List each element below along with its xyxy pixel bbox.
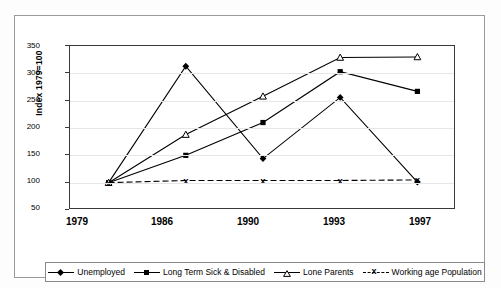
x-marker-icon: x xyxy=(363,267,389,277)
y-tick-label: 150 xyxy=(0,150,40,158)
filled-square-icon xyxy=(134,267,160,277)
data-point-x: x xyxy=(338,175,344,186)
data-point-square xyxy=(415,89,420,94)
filled-diamond-icon xyxy=(48,267,74,277)
data-point-square xyxy=(260,120,265,125)
data-point-triangle xyxy=(182,131,189,137)
y-tick-label: 50 xyxy=(0,204,40,212)
legend-label: Working age Population xyxy=(392,267,482,277)
legend-label: Long Term Sick & Disabled xyxy=(163,267,265,277)
y-tick-label: 250 xyxy=(0,96,40,104)
legend-item-unemployed[interactable]: Unemployed xyxy=(48,267,125,277)
legend-item-long-term-sick-disabled[interactable]: Long Term Sick & Disabled xyxy=(134,267,265,277)
data-point-x: x xyxy=(415,174,421,185)
y-tick-label: 350 xyxy=(0,42,40,50)
legend-item-working-age-population[interactable]: x Working age Population xyxy=(363,267,482,277)
plot-region: xxxxx xyxy=(69,45,455,209)
x-tick-label: 1990 xyxy=(218,216,278,227)
legend-item-lone-parents[interactable]: Lone Parents xyxy=(274,267,354,277)
chart-outer-frame: Index 1979=100 350 300 250 200 150 100 5… xyxy=(14,15,485,278)
x-tick-label: 1997 xyxy=(390,216,450,227)
data-point-triangle xyxy=(260,93,267,99)
chart-figure: Index 1979=100 350 300 250 200 150 100 5… xyxy=(0,0,501,288)
x-tick-label: 1993 xyxy=(304,216,364,227)
gridline xyxy=(70,101,454,102)
y-tick-label: 300 xyxy=(0,69,40,77)
gridline xyxy=(70,155,454,156)
series-working-age-population: xxxxx xyxy=(106,174,421,188)
data-point-x: x xyxy=(260,175,266,186)
y-tick-label: 100 xyxy=(0,177,40,185)
y-tick-label: 200 xyxy=(0,123,40,131)
open-triangle-icon xyxy=(274,267,300,277)
data-point-x: x xyxy=(183,175,189,186)
gridline xyxy=(70,128,454,129)
legend-label: Lone Parents xyxy=(303,267,354,277)
chart-area: Index 1979=100 350 300 250 200 150 100 5… xyxy=(15,16,484,277)
legend-label: Unemployed xyxy=(77,267,125,277)
x-tick-label: 1979 xyxy=(47,216,107,227)
gridline xyxy=(70,73,454,74)
gridline xyxy=(70,183,454,184)
x-tick-label: 1986 xyxy=(132,216,192,227)
series-line xyxy=(109,57,418,183)
chart-legend: Unemployed Long Term Sick & Disabled xyxy=(45,262,485,282)
